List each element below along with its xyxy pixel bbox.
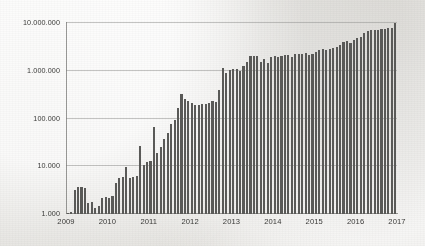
bar xyxy=(256,56,258,214)
bar xyxy=(129,178,131,214)
bar xyxy=(177,108,179,214)
bar xyxy=(384,29,386,214)
bar xyxy=(215,102,217,214)
bar xyxy=(391,28,393,214)
bar xyxy=(284,55,286,214)
bar xyxy=(67,213,69,214)
y-tick-label: 10.000.000 xyxy=(0,18,60,27)
bar xyxy=(174,120,176,214)
bar xyxy=(322,49,324,214)
bar xyxy=(311,54,313,214)
y-tick-label: 10.000 xyxy=(0,161,60,170)
bar xyxy=(122,177,124,214)
x-tick-label: 2017 xyxy=(388,217,405,226)
bar xyxy=(115,183,117,214)
bar xyxy=(336,47,338,214)
bar xyxy=(356,38,358,214)
bar xyxy=(118,178,120,214)
bar xyxy=(287,55,289,214)
bar xyxy=(339,45,341,214)
bar xyxy=(94,208,96,214)
y-tick-label: 1.000.000 xyxy=(0,65,60,74)
bar xyxy=(342,42,344,214)
bar xyxy=(305,53,307,214)
bar xyxy=(346,41,348,214)
bar xyxy=(201,104,203,214)
bar xyxy=(136,176,138,214)
x-tick-label: 2011 xyxy=(140,217,157,226)
bar xyxy=(191,103,193,214)
bar xyxy=(170,124,172,214)
bar xyxy=(325,50,327,214)
bar xyxy=(301,54,303,214)
bar xyxy=(263,59,265,214)
bar xyxy=(125,167,127,214)
bar xyxy=(74,190,76,214)
x-tick-label: 2016 xyxy=(347,217,364,226)
bar xyxy=(101,198,103,214)
bar xyxy=(146,162,148,214)
bar xyxy=(205,104,207,214)
bar xyxy=(242,66,244,214)
bar xyxy=(139,146,141,214)
bar xyxy=(291,57,293,214)
bar xyxy=(91,202,93,214)
bar xyxy=(253,56,255,214)
bar xyxy=(308,55,310,214)
x-tick-label: 2012 xyxy=(181,217,198,226)
bar xyxy=(111,196,113,214)
bar xyxy=(318,50,320,214)
bar xyxy=(380,29,382,214)
bar xyxy=(143,165,145,214)
bar xyxy=(239,71,241,214)
bar xyxy=(156,153,158,214)
x-tick-label: 2009 xyxy=(57,217,74,226)
bar xyxy=(108,198,110,214)
bar xyxy=(329,49,331,214)
bar xyxy=(277,57,279,214)
bar xyxy=(198,105,200,214)
x-tick-label: 2014 xyxy=(264,217,281,226)
bar xyxy=(270,57,272,214)
bar xyxy=(315,52,317,214)
bar xyxy=(105,197,107,214)
y-tick-label: 100.000 xyxy=(0,113,60,122)
bar xyxy=(132,177,134,214)
bar xyxy=(77,187,79,214)
bar xyxy=(229,70,231,214)
bar xyxy=(360,37,362,214)
bar xyxy=(180,94,182,214)
bar xyxy=(184,99,186,214)
bar xyxy=(387,28,389,214)
bar xyxy=(236,69,238,214)
bar xyxy=(98,206,100,214)
bar xyxy=(225,73,227,214)
bar xyxy=(374,30,376,214)
bar xyxy=(222,68,224,214)
bar xyxy=(332,48,334,214)
bar xyxy=(367,31,369,214)
bar xyxy=(211,101,213,214)
bar xyxy=(377,30,379,214)
y-tick-label: 1.000 xyxy=(0,209,60,218)
bar xyxy=(187,101,189,214)
bar xyxy=(163,139,165,214)
bar xyxy=(370,30,372,214)
bar xyxy=(267,63,269,214)
bar xyxy=(149,161,151,214)
bar xyxy=(84,188,86,214)
x-tick-label: 2013 xyxy=(223,217,240,226)
bar xyxy=(394,23,396,214)
bar xyxy=(280,56,282,214)
bar xyxy=(246,62,248,214)
bar xyxy=(87,203,89,214)
plot-area xyxy=(66,22,398,214)
bar xyxy=(260,62,262,214)
bar xyxy=(208,103,210,214)
bar xyxy=(274,56,276,214)
bar xyxy=(232,69,234,214)
bar xyxy=(80,187,82,214)
x-tick-label: 2015 xyxy=(306,217,323,226)
bar xyxy=(249,56,251,214)
log-scale-bar-chart: 10.000.0001.000.000100.00010.0001.000 20… xyxy=(0,0,425,246)
